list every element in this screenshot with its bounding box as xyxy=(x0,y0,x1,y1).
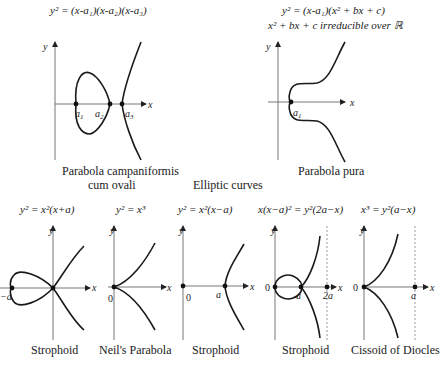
svg-text:y: y xyxy=(359,225,365,236)
svg-text:a: a xyxy=(216,289,221,300)
equation-strophoid-3: x(x−a)² = y²(2a−x) xyxy=(258,203,343,215)
svg-text:x: x xyxy=(166,282,172,293)
caption-cissoid: Cissoid of Diocles xyxy=(351,343,440,358)
svg-text:y: y xyxy=(270,225,276,236)
svg-text:x: x xyxy=(249,281,255,292)
plot-cissoid: y x 0 a xyxy=(353,225,435,340)
plot-campaniformis: y x a1 a2 a3 xyxy=(42,41,153,160)
svg-text:a3: a3 xyxy=(125,108,134,121)
svg-text:x: x xyxy=(147,99,153,110)
diagram-title: Elliptic curves xyxy=(193,178,263,193)
svg-text:0: 0 xyxy=(108,293,113,304)
svg-text:a2: a2 xyxy=(95,108,104,121)
svg-text:0: 0 xyxy=(353,282,358,293)
caption-campaniformis-2: cum ovali xyxy=(88,178,136,193)
svg-text:x: x xyxy=(429,282,435,293)
svg-text:y: y xyxy=(48,225,54,236)
equation-strophoid-1: y² = x²(x+a) xyxy=(20,203,74,215)
caption-strophoid-2: Strophoid xyxy=(192,343,239,358)
caption-neils-parabola: Neil's Parabola xyxy=(99,343,171,358)
svg-text:y: y xyxy=(109,225,115,236)
plot-strophoid-1: y x −a xyxy=(0,225,97,340)
svg-text:y: y xyxy=(178,225,184,236)
equation-cissoid: x³ = y²(a−x) xyxy=(361,203,415,215)
svg-text:y: y xyxy=(42,41,48,52)
svg-text:−a: −a xyxy=(0,291,12,302)
svg-text:y: y xyxy=(265,41,271,52)
svg-text:x: x xyxy=(91,282,97,293)
svg-text:2a: 2a xyxy=(323,290,333,301)
caption-pura: Parabola pura xyxy=(298,164,364,179)
svg-text:x: x xyxy=(349,97,355,108)
plot-pura: y x a1 xyxy=(265,41,355,162)
svg-text:0: 0 xyxy=(186,292,191,303)
caption-campaniformis-1: Parabola campaniformis xyxy=(62,164,179,179)
equation-strophoid-2: y² = x²(x−a) xyxy=(178,203,232,215)
equation-neils-parabola: y² = x³ xyxy=(116,203,145,215)
plot-strophoid-2: y x 0 a xyxy=(178,225,255,340)
caption-strophoid-3: Strophoid xyxy=(282,343,329,358)
svg-text:a: a xyxy=(296,290,301,301)
plot-neils-parabola: y x 0 xyxy=(108,225,172,340)
svg-text:x: x xyxy=(337,282,343,293)
svg-text:a: a xyxy=(411,290,416,301)
caption-strophoid-1: Strophoid xyxy=(31,343,78,358)
plot-strophoid-3: y x 0 a 2a xyxy=(265,225,343,340)
svg-text:0: 0 xyxy=(265,282,270,293)
